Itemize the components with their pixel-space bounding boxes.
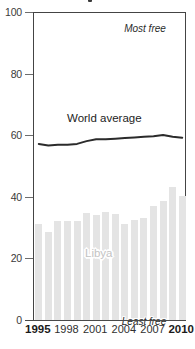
y-axis-tick: [25, 197, 33, 198]
y-axis-tick: [25, 135, 33, 136]
plot-area: Most free Least free: [33, 12, 186, 320]
line-series-world-average: [34, 13, 187, 321]
world-average-line-path: [39, 135, 182, 145]
series-label-libya: Libya: [85, 247, 113, 259]
y-axis-tick-label: 20: [0, 253, 22, 264]
series-label-world-average: World average: [67, 112, 142, 124]
y-axis-tick-label: 0: [0, 315, 22, 326]
y-axis-tick-label: 40: [0, 192, 22, 203]
y-axis-tick-label: 80: [0, 69, 22, 80]
x-axis-tick-label: 2004: [112, 324, 136, 335]
y-axis-tick: [25, 74, 33, 75]
y-axis-tick: [25, 258, 33, 259]
clipped-title-descender: [88, 0, 92, 2]
x-axis-tick-label: 1995: [25, 324, 51, 336]
x-axis-baseline: [25, 320, 186, 321]
x-axis-tick-label: 2010: [168, 324, 194, 336]
chart-figure: 020406080100 Most free Least free World …: [0, 0, 195, 349]
x-axis-tick-label: 1998: [54, 324, 78, 335]
x-axis-tick-label: 2001: [83, 324, 107, 335]
y-axis-tick: [25, 12, 33, 13]
x-axis-tick-label: 2007: [140, 324, 164, 335]
y-axis-tick-label: 60: [0, 130, 22, 141]
annotation-most-free: Most free: [124, 23, 166, 34]
y-axis-tick-label: 100: [0, 7, 22, 18]
